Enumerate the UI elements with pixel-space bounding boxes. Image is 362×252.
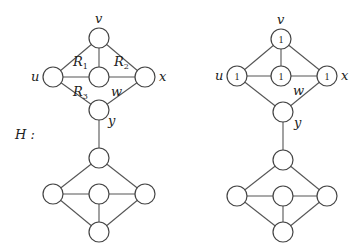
right-label-y: y — [293, 115, 302, 130]
right-graph: 1 1 1 1 v u w x y — [215, 12, 349, 242]
left-vertex-u — [43, 67, 63, 87]
region-label-r3: R3 — [72, 84, 88, 101]
right-value-x: 1 — [325, 71, 330, 82]
right-lower-vertex-left — [227, 186, 247, 206]
graph-label-h: H : — [14, 127, 35, 142]
left-label-y: y — [107, 113, 116, 128]
right-value-w: 1 — [279, 71, 284, 82]
right-label-v: v — [277, 12, 285, 27]
left-label-x: x — [159, 69, 167, 84]
left-label-u: u — [31, 69, 39, 84]
left-lower-vertex-bottom — [89, 222, 109, 242]
right-lower-vertex-top — [273, 150, 293, 170]
right-label-w: w — [293, 83, 304, 98]
left-lower-vertex-center — [89, 184, 109, 204]
right-lower-vertex-right — [317, 186, 337, 206]
left-label-v: v — [95, 11, 103, 26]
left-graph: v u w x y R1 R2 R3 H : — [14, 11, 167, 242]
right-lower-vertex-bottom — [273, 222, 293, 242]
left-vertex-y — [89, 100, 109, 120]
left-vertex-v — [89, 28, 109, 48]
right-vertex-y — [273, 102, 293, 122]
left-label-w: w — [111, 84, 122, 99]
left-vertex-w — [89, 67, 109, 87]
left-lower-vertex-top — [89, 148, 109, 168]
right-lower-vertex-center — [273, 186, 293, 206]
region-label-r1: R1 — [72, 54, 88, 71]
left-lower-vertex-left — [43, 184, 63, 204]
left-vertex-x — [135, 67, 155, 87]
right-value-u: 1 — [235, 71, 240, 82]
right-value-v: 1 — [279, 34, 284, 45]
right-label-x: x — [341, 68, 349, 83]
graph-diagram: v u w x y R1 R2 R3 H : — [0, 0, 362, 252]
right-label-u: u — [215, 68, 223, 83]
diagram-canvas: v u w x y R1 R2 R3 H : — [0, 0, 362, 252]
region-label-r2: R2 — [113, 54, 129, 71]
left-lower-vertex-right — [135, 184, 155, 204]
